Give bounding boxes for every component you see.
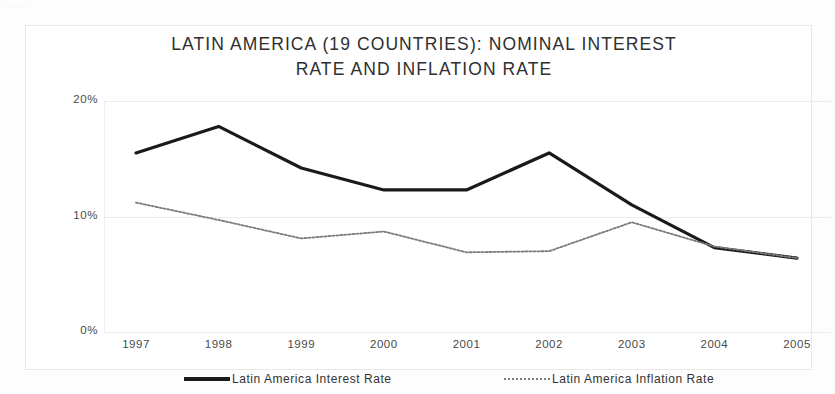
x-tick-label-1998: 1998 <box>189 338 249 350</box>
x-tick-label-2004: 2004 <box>684 338 744 350</box>
legend-item-inflation-rate[interactable]: Latin America Inflation Rate <box>504 370 714 388</box>
x-tick-label-2005: 2005 <box>767 338 827 350</box>
chart-frame: LATIN AMERICA (19 COUNTRIES): NOMINAL IN… <box>25 25 812 370</box>
y-axis-tick-labels: 0%10%20% <box>40 101 98 332</box>
x-axis-tick-labels: 199719981999200020012002200320042005 <box>104 338 831 358</box>
series-line-interest-rate <box>136 126 797 258</box>
legend-swatch-interest-rate-icon <box>184 373 230 385</box>
legend-label-inflation-rate: Latin America Inflation Rate <box>552 372 714 386</box>
chart-title-line-1: LATIN AMERICA (19 COUNTRIES): NOMINAL IN… <box>104 32 744 57</box>
scan-artifact-text: ____ <box>6 0 28 7</box>
y-tick-label-0%: 0% <box>46 324 98 336</box>
legend-label-interest-rate: Latin America Interest Rate <box>232 372 392 386</box>
x-tick-label-2003: 2003 <box>602 338 662 350</box>
series-lines <box>104 101 831 332</box>
plot-area <box>104 101 831 332</box>
y-tick-label-10%: 10% <box>46 209 98 221</box>
series-line-inflation-rate <box>136 203 797 258</box>
x-tick-label-2000: 2000 <box>354 338 414 350</box>
x-tick-label-1997: 1997 <box>106 338 166 350</box>
chart-title: LATIN AMERICA (19 COUNTRIES): NOMINAL IN… <box>104 32 744 82</box>
x-tick-label-1999: 1999 <box>271 338 331 350</box>
chart-figure: ____ LATIN AMERICA (19 COUNTRIES): NOMIN… <box>0 0 835 394</box>
legend-swatch-inflation-rate-icon <box>504 373 550 385</box>
y-tick-label-20%: 20% <box>46 93 98 105</box>
x-tick-label-2001: 2001 <box>437 338 497 350</box>
gridline-0% <box>104 332 831 333</box>
chart-legend: Latin America Interest Rate Latin Americ… <box>104 370 784 392</box>
legend-item-interest-rate[interactable]: Latin America Interest Rate <box>184 370 392 388</box>
x-tick-label-2002: 2002 <box>519 338 579 350</box>
chart-title-line-2: RATE AND INFLATION RATE <box>104 57 744 82</box>
